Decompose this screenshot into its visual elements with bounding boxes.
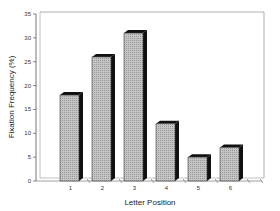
bar-4 <box>156 121 179 181</box>
x-tick-label: 5 <box>197 185 201 191</box>
y-tick-label: 15 <box>24 106 31 112</box>
bar-2 <box>92 54 115 181</box>
y-tick-label: 20 <box>24 83 31 89</box>
bar-5 <box>188 154 211 181</box>
y-tick-label: 10 <box>24 130 31 136</box>
y-axis: 05101520253035 <box>24 11 36 184</box>
y-tick-label: 25 <box>24 59 31 65</box>
bar-1 <box>60 92 83 181</box>
y-tick-label: 5 <box>28 154 32 160</box>
y-tick-label: 30 <box>24 35 31 41</box>
bars <box>60 30 243 181</box>
x-axis-title: Letter Position <box>124 198 175 207</box>
x-tick-label: 4 <box>165 185 169 191</box>
x-tick-label: 2 <box>101 185 105 191</box>
y-tick-label: 0 <box>28 178 32 184</box>
x-tick-label: 1 <box>69 185 73 191</box>
x-tick-label: 3 <box>133 185 137 191</box>
bar-chart: 05101520253035 123456 Letter Position Fi… <box>0 0 280 211</box>
y-axis-title: Fixation Frequency (%) <box>7 55 16 138</box>
bar-6 <box>220 145 243 181</box>
x-tick-label: 6 <box>229 185 233 191</box>
bar-3 <box>124 30 147 181</box>
y-tick-label: 35 <box>24 11 31 17</box>
